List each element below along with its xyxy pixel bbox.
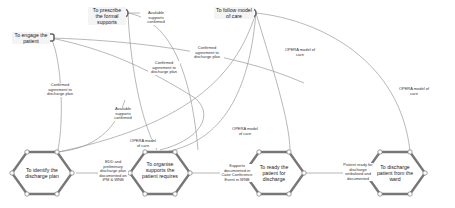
goal-prescribe-label: To prescribe the formal supports <box>88 7 126 25</box>
edge-label-confirmed-left: Confirmed agreement to discharge plan <box>45 83 75 97</box>
edge-prescribe-organise-2 <box>128 13 198 150</box>
edge-follow-identify <box>58 13 256 152</box>
edge-label-opera-right2: OPERA model of care <box>397 87 431 96</box>
hex-identify-label: To identify the discharge plan <box>22 167 62 179</box>
hex-organise-label: To organise supports the patient require… <box>140 161 180 179</box>
goal-follow-label: To follow model of care <box>214 7 254 19</box>
edge-label-opera-mid: OPERA model of care <box>230 127 260 136</box>
edge-label-opera-right1: OPERA model of care <box>283 48 317 57</box>
edge-follow-ready <box>256 13 290 151</box>
edge-prescribe-organise <box>128 13 157 150</box>
goal-engage-label: To engage the patient <box>12 32 50 44</box>
edge-label-opera-left: OPERA model of care <box>128 139 158 148</box>
edge-label-supports-doc: Supports documented in Case Conference E… <box>220 164 254 182</box>
edge-label-available-left: Available supports confirmed <box>111 107 135 121</box>
hex-ready-label: To ready the patient for discharge <box>254 164 294 182</box>
edge-label-confirmed-right: Confirmed agreement to discharge plan <box>190 46 224 60</box>
hex-discharge-label: To discharge patient from the ward <box>375 164 415 182</box>
edge-label-edd: EDD and preliminary discharge plan docum… <box>98 160 128 183</box>
edge-label-ready-doc: Patient ready for discharge verbalised a… <box>343 163 373 181</box>
edge-label-available-top: Available supports confirmed <box>141 11 171 25</box>
edge-label-confirmed-mid: Confirmed agreement to discharge plan <box>148 61 180 75</box>
edge-follow-discharge <box>256 13 410 151</box>
